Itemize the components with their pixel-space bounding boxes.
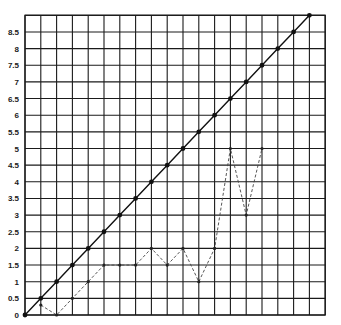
data-point	[181, 247, 184, 250]
data-point	[307, 13, 312, 18]
y-tick-label: 6.5	[8, 95, 20, 104]
data-point	[260, 63, 265, 68]
y-tick-label: 5	[15, 145, 20, 154]
y-tick-label: 0.5	[8, 294, 20, 303]
y-tick-label: 2	[15, 244, 20, 253]
y-tick-label: 8.5	[8, 28, 20, 37]
data-point	[102, 263, 105, 266]
grid	[25, 15, 325, 315]
data-point	[245, 214, 248, 217]
y-tick-label: 4	[15, 178, 20, 187]
data-point	[275, 46, 280, 51]
data-point	[213, 247, 216, 250]
data-point	[149, 179, 154, 184]
y-tick-label: 5.5	[8, 128, 20, 137]
y-tick-label: 2.5	[8, 228, 20, 237]
data-point	[54, 279, 59, 284]
y-tick-label: 3.5	[8, 194, 20, 203]
data-point	[228, 96, 233, 101]
y-tick-label: 0	[15, 311, 20, 320]
y-tick-label: 4.5	[8, 161, 20, 170]
y-tick-label: 1	[15, 278, 20, 287]
data-point	[196, 129, 201, 134]
y-tick-label: 7	[15, 78, 20, 87]
data-point	[55, 313, 58, 316]
data-point	[150, 247, 153, 250]
y-tick-label: 6	[15, 111, 20, 120]
data-point	[102, 229, 107, 234]
y-tick-label: 1.5	[8, 261, 20, 270]
data-point	[87, 280, 90, 283]
data-point	[260, 147, 263, 150]
data-point	[291, 30, 296, 35]
data-point	[70, 263, 75, 268]
y-tick-label: 8	[15, 45, 20, 54]
data-point	[86, 246, 91, 251]
data-point	[229, 147, 232, 150]
data-point	[197, 280, 200, 283]
data-point	[212, 113, 217, 118]
chart: 00.511.522.533.544.555.566.577.588.5	[0, 0, 341, 325]
data-point	[118, 263, 121, 266]
data-point	[117, 213, 122, 218]
data-point	[165, 163, 170, 168]
data-point	[133, 196, 138, 201]
data-point	[181, 146, 186, 151]
y-tick-label: 7.5	[8, 61, 20, 70]
data-point	[244, 80, 249, 85]
data-point	[166, 263, 169, 266]
data-point	[38, 296, 43, 301]
y-axis-labels: 00.511.522.533.544.555.566.577.588.5	[8, 28, 20, 320]
y-tick-label: 3	[15, 211, 20, 220]
data-point	[134, 263, 137, 266]
data-point	[23, 313, 28, 318]
data-point	[39, 303, 42, 306]
data-point	[71, 297, 74, 300]
